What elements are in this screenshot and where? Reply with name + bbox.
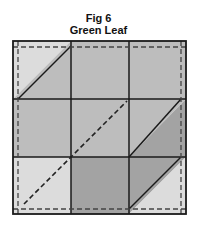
cell-r3-c3 <box>129 157 186 214</box>
cell-r3-c2 <box>71 157 129 214</box>
cell-r1-c2 <box>71 41 129 99</box>
quilt-block-diagram <box>0 0 197 232</box>
cell-r2-c1 <box>13 99 71 157</box>
cell-r1-c3 <box>129 41 186 99</box>
cell-r2-c3 <box>129 99 186 157</box>
cell-r1-c1 <box>13 41 71 99</box>
